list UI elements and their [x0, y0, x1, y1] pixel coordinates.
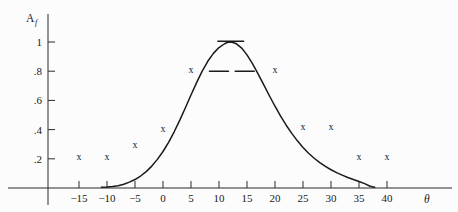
x-tick-label: 15 — [242, 192, 254, 204]
data-point-marker: x — [329, 121, 334, 132]
x-tick-label: 10 — [214, 192, 226, 204]
y-axis-title-text: A — [26, 12, 35, 24]
x-axis-tick-labels: −15−10−50510152025303540 — [70, 192, 393, 204]
data-point-marker: x — [161, 123, 166, 134]
data-point-marker: x — [385, 151, 390, 162]
x-tick-label: 25 — [298, 192, 310, 204]
y-tick-label: .2 — [34, 153, 42, 165]
x-tick-label: −10 — [98, 192, 116, 204]
data-point-marker: x — [301, 121, 306, 132]
data-point-marker: x — [273, 64, 278, 75]
data-point-marker: x — [357, 151, 362, 162]
y-tick-label: .4 — [34, 124, 43, 136]
x-tick-label: −5 — [129, 192, 141, 204]
chart-canvas: −15−10−50510152025303540 .2.4.6.81 xxxxx… — [0, 0, 458, 212]
data-point-marker: x — [189, 64, 194, 75]
x-tick-label: −15 — [70, 192, 88, 204]
y-axis-title: A f — [26, 12, 39, 27]
x-tick-label: 0 — [160, 192, 166, 204]
x-tick-label: 35 — [354, 192, 366, 204]
data-point-marker: x — [77, 151, 82, 162]
y-tick-label: .6 — [34, 94, 43, 106]
x-tick-label: 20 — [270, 192, 282, 204]
data-point-marker: x — [105, 151, 110, 162]
chart-figure: −15−10−50510152025303540 .2.4.6.81 xxxxx… — [0, 0, 458, 212]
x-tick-label: 30 — [326, 192, 338, 204]
x-tick-label: 40 — [382, 192, 394, 204]
y-tick-label: .8 — [34, 65, 43, 77]
y-axis-title-subscript: f — [35, 18, 39, 27]
y-axis-tick-labels: .2.4.6.81 — [34, 36, 43, 165]
data-point-marker: x — [133, 139, 138, 150]
x-axis-title-text: θ — [424, 193, 430, 205]
fitted-curve — [101, 42, 374, 187]
x-tick-label: 5 — [188, 192, 194, 204]
y-tick-label: 1 — [37, 36, 43, 48]
y-axis-ticks — [48, 42, 55, 159]
x-axis-ticks — [79, 181, 387, 188]
data-point-markers: xxxxxxxxxx — [77, 64, 390, 162]
